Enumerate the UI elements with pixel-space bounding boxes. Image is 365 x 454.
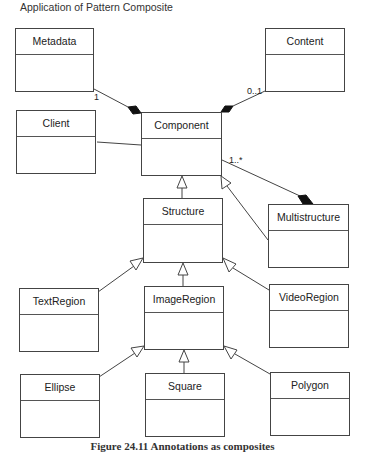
multiplicity-multistructure: 1..* xyxy=(229,155,243,165)
class-multistructure[interactable]: Multistructure xyxy=(268,204,349,268)
multiplicity-content: 0..1 xyxy=(247,86,262,96)
generalization-arrow-icon xyxy=(223,258,236,272)
class-name: ImageRegion xyxy=(145,287,223,313)
class-name: Square xyxy=(146,374,224,400)
generalization-arrow-icon xyxy=(130,258,143,270)
class-videoregion[interactable]: VideoRegion xyxy=(269,284,349,348)
generalization-arrow-icon xyxy=(179,350,189,362)
class-name: Metadata xyxy=(16,29,93,55)
class-name: VideoRegion xyxy=(270,285,348,311)
composition-diamond-icon xyxy=(298,195,313,204)
class-name: TextRegion xyxy=(20,289,98,315)
class-structure[interactable]: Structure xyxy=(143,198,223,263)
connector-multistructure-component xyxy=(227,186,268,240)
class-textregion[interactable]: TextRegion xyxy=(19,288,99,352)
class-name: Client xyxy=(17,111,95,137)
class-name: Polygon xyxy=(271,373,349,399)
class-name: Component xyxy=(142,113,221,139)
composition-diamond-icon xyxy=(128,106,141,114)
class-component[interactable]: Component xyxy=(141,112,222,176)
generalization-arrow-icon xyxy=(221,176,231,189)
connector-component-multistructure xyxy=(222,160,300,196)
connector-client-component xyxy=(97,142,141,145)
generalization-arrow-icon xyxy=(224,346,237,359)
class-square[interactable]: Square xyxy=(145,373,225,437)
class-client[interactable]: Client xyxy=(16,110,96,174)
class-ellipse[interactable]: Ellipse xyxy=(20,374,100,438)
connector-videoregion-structure xyxy=(233,268,269,290)
generalization-arrow-icon xyxy=(178,263,188,275)
class-name: Multistructure xyxy=(269,205,348,231)
generalization-arrow-icon xyxy=(131,346,144,357)
figure-caption: Figure 24.11 Annotations as composites xyxy=(0,440,365,452)
connector-polygon-imageregion xyxy=(235,354,270,374)
connector-textregion-structure xyxy=(98,266,134,292)
multiplicity-metadata: 1 xyxy=(94,92,99,102)
class-metadata[interactable]: Metadata xyxy=(15,28,94,92)
class-name: Structure xyxy=(144,199,222,225)
connector-metadata-component xyxy=(94,89,128,107)
composition-diamond-icon xyxy=(221,106,233,112)
connector-ellipse-imageregion xyxy=(99,353,135,377)
class-polygon[interactable]: Polygon xyxy=(270,372,350,436)
class-name: Ellipse xyxy=(21,375,99,401)
generalization-arrow-icon xyxy=(177,176,187,188)
class-content[interactable]: Content xyxy=(265,28,345,92)
class-imageregion[interactable]: ImageRegion xyxy=(144,286,224,350)
class-name: Content xyxy=(266,29,344,55)
